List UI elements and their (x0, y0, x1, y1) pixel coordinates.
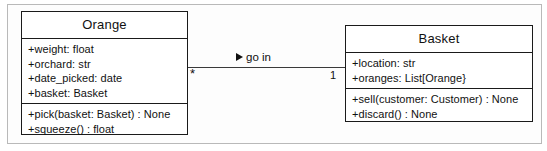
association-label: go in (246, 51, 271, 63)
attributes-compartment-orange: +weight: float +orchard: str +date_picke… (22, 38, 187, 103)
method-row: +discard() : None (352, 107, 527, 122)
uml-class-basket[interactable]: Basket +location: str +oranges: List[Ora… (345, 25, 533, 122)
methods-compartment-orange: +pick(basket: Basket) : None +squeeze() … (22, 103, 187, 139)
class-name-basket: Basket (346, 26, 532, 52)
attribute-row: +oranges: List[Orange} (352, 71, 527, 86)
association-direction-arrow-icon (236, 53, 243, 61)
multiplicity-source: * (190, 66, 195, 81)
attribute-row: +date_picked: date (28, 71, 182, 86)
multiplicity-target: 1 (330, 69, 336, 81)
association-label-group: go in (236, 51, 271, 63)
association-line (188, 67, 346, 68)
attribute-row: +weight: float (28, 42, 182, 57)
uml-class-orange[interactable]: Orange +weight: float +orchard: str +dat… (21, 11, 188, 135)
method-row: +sell(customer: Customer) : None (352, 92, 527, 107)
attribute-row: +location: str (352, 56, 527, 71)
class-name-orange: Orange (22, 12, 187, 38)
method-row: +squeeze() : float (28, 122, 182, 137)
attributes-compartment-basket: +location: str +oranges: List[Orange} (346, 52, 532, 88)
attribute-row: +orchard: str (28, 57, 182, 72)
method-row: +pick(basket: Basket) : None (28, 107, 182, 122)
methods-compartment-basket: +sell(customer: Customer) : None +discar… (346, 88, 532, 124)
attribute-row: +basket: Basket (28, 86, 182, 101)
uml-class-diagram: Orange +weight: float +orchard: str +dat… (0, 0, 547, 151)
